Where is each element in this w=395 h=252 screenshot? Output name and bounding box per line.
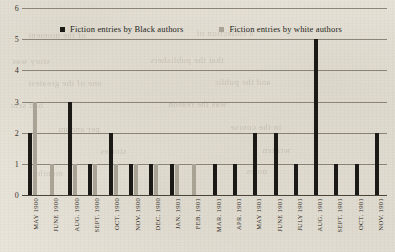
- bar-group: [286, 8, 306, 195]
- plot-area: 0123456: [22, 8, 387, 195]
- bar-black: [68, 102, 72, 196]
- x-axis-label-text: FEB. 1901: [194, 198, 201, 229]
- bar-group: [265, 8, 285, 195]
- bar-gray: [192, 164, 196, 195]
- bar-black: [129, 164, 133, 195]
- y-axis-tick-label: 4: [15, 66, 19, 75]
- x-axis-label-text: MAY 1901: [255, 198, 262, 230]
- bar-black: [334, 164, 338, 195]
- bar-gray: [33, 102, 37, 196]
- x-axis-label-cell: AUG. 1901: [306, 197, 326, 251]
- bar-group: [164, 8, 184, 195]
- chart-legend: Fiction entries by Black authorsFiction …: [60, 24, 342, 34]
- bar-black: [170, 164, 174, 195]
- x-axis-label-cell: OCT. 1900: [103, 197, 123, 251]
- x-axis-label-cell: SEPT. 1901: [326, 197, 346, 251]
- bar-group: [63, 8, 83, 195]
- bar-gray: [50, 164, 54, 195]
- bar-gray: [73, 164, 77, 195]
- bar-black: [88, 164, 92, 195]
- bar-black: [294, 164, 298, 195]
- x-axis-label-text: MAY 1900: [32, 198, 39, 230]
- bar-gray: [154, 164, 158, 195]
- bar-group: [22, 8, 42, 195]
- bar-black: [109, 133, 113, 195]
- x-axis-label-cell: JUNE 1901: [265, 197, 285, 251]
- bar-black: [274, 133, 278, 195]
- x-axis-labels: MAY 1900JUNE 1900AUG. 1900SEPT. 1900OCT.…: [22, 197, 387, 251]
- y-axis-tick-label: 0: [15, 191, 19, 200]
- bar-group: [245, 8, 265, 195]
- bar-black: [253, 133, 257, 195]
- x-axis-label-text: NOV. 1901: [377, 198, 384, 231]
- x-axis-label-text: SEPT. 1900: [93, 198, 100, 232]
- x-axis-label-text: NOV. 1900: [134, 198, 141, 231]
- y-axis-tick-label: 6: [15, 4, 19, 13]
- y-axis-tick-label: 1: [15, 159, 19, 168]
- x-axis-label-cell: MAR. 1901: [205, 197, 225, 251]
- x-axis-label-cell: APR. 1901: [225, 197, 245, 251]
- x-axis-label-text: MAR. 1901: [215, 198, 222, 232]
- x-axis-label-cell: JUNE 1900: [42, 197, 62, 251]
- bar-gray: [93, 164, 97, 195]
- x-axis-label-text: JAN. 1901: [174, 198, 181, 229]
- x-axis-label-cell: SEPT. 1900: [83, 197, 103, 251]
- bar-group: [184, 8, 204, 195]
- legend-label: Fiction entries by Black authors: [70, 24, 183, 34]
- x-axis-label-cell: MAY 1901: [245, 197, 265, 251]
- x-axis-label-text: AUG. 1901: [316, 198, 323, 231]
- x-axis-label-cell: NOV. 1901: [367, 197, 387, 251]
- legend-item: Fiction entries by white authors: [219, 24, 341, 34]
- x-axis-label-text: OCT. 1900: [113, 198, 120, 230]
- bar-gray: [134, 164, 138, 195]
- bars-group: [22, 8, 387, 195]
- bar-black: [314, 39, 318, 195]
- fiction-entries-bar-chart: 0123456 MAY 1900JUNE 1900AUG. 1900SEPT. …: [0, 0, 395, 252]
- bar-black: [233, 164, 237, 195]
- x-axis-label-text: APR. 1901: [235, 198, 242, 230]
- x-axis-label-cell: AUG. 1900: [63, 197, 83, 251]
- legend-swatch-black-icon: [60, 27, 65, 32]
- bar-gray: [175, 164, 179, 195]
- x-axis-line: [22, 195, 387, 196]
- x-axis-label-cell: JAN. 1901: [164, 197, 184, 251]
- x-axis-label-cell: JULY 1901: [286, 197, 306, 251]
- bar-group: [225, 8, 245, 195]
- bar-black: [149, 164, 153, 195]
- bar-group: [144, 8, 164, 195]
- x-axis-label-text: AUG. 1900: [73, 198, 80, 231]
- y-axis-tick-label: 3: [15, 97, 19, 106]
- bar-black: [375, 133, 379, 195]
- x-axis-label-cell: MAY 1900: [22, 197, 42, 251]
- x-axis-label-text: JUNE 1901: [276, 198, 283, 232]
- y-axis-tick-label: 2: [15, 128, 19, 137]
- bar-black: [355, 164, 359, 195]
- bar-group: [326, 8, 346, 195]
- bar-group: [83, 8, 103, 195]
- x-axis-label-text: JUNE 1900: [52, 198, 59, 232]
- bar-group: [205, 8, 225, 195]
- bar-gray: [114, 164, 118, 195]
- x-axis-label-cell: OCT. 1901: [347, 197, 367, 251]
- bar-group: [103, 8, 123, 195]
- legend-swatch-gray-icon: [219, 27, 224, 32]
- x-axis-label-cell: FEB. 1901: [184, 197, 204, 251]
- x-axis-label-text: JULY 1901: [296, 198, 303, 231]
- bar-black: [213, 164, 217, 195]
- x-axis-label-text: OCT. 1901: [357, 198, 364, 230]
- bar-group: [123, 8, 143, 195]
- bar-group: [367, 8, 387, 195]
- bar-group: [306, 8, 326, 195]
- y-axis-tick-label: 5: [15, 35, 19, 44]
- x-axis-label-cell: NOV. 1900: [123, 197, 143, 251]
- bar-group: [347, 8, 367, 195]
- x-axis-label-text: DEC. 1900: [154, 198, 161, 230]
- legend-label: Fiction entries by white authors: [229, 24, 341, 34]
- x-axis-label-text: SEPT. 1901: [336, 198, 343, 232]
- bar-group: [42, 8, 62, 195]
- bar-black: [28, 133, 32, 195]
- x-axis-label-cell: DEC. 1900: [144, 197, 164, 251]
- legend-item: Fiction entries by Black authors: [60, 24, 183, 34]
